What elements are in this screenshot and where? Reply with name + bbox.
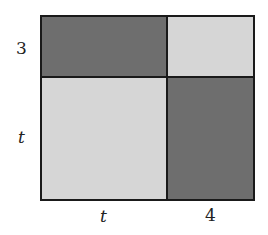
label-bottom-left: t xyxy=(100,208,107,225)
region-bottom-left xyxy=(41,77,167,200)
area-model-diagram: 3 t t 4 xyxy=(0,0,268,235)
horizontal-divider xyxy=(40,76,255,78)
label-left-bottom: t xyxy=(18,129,25,146)
label-bottom-right: 4 xyxy=(205,207,216,224)
label-left-top: 3 xyxy=(16,40,27,57)
vertical-divider xyxy=(166,15,168,201)
region-top-right xyxy=(167,16,254,77)
region-top-left xyxy=(41,16,167,77)
region-bottom-right xyxy=(167,77,254,200)
